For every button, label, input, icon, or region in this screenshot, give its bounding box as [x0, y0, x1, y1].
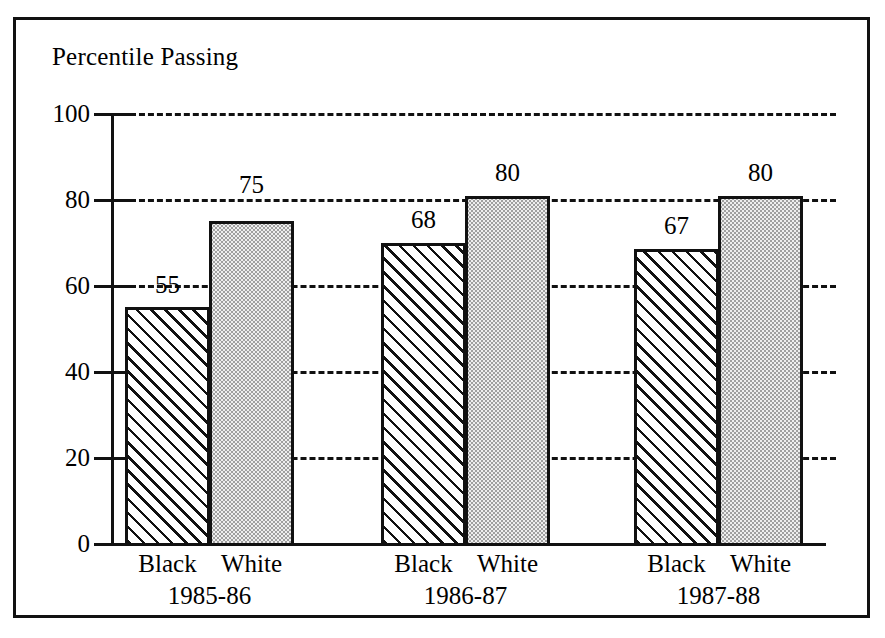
y-tick-label-60: 60: [18, 273, 90, 298]
bar-1986-87-white[interactable]: [465, 196, 550, 546]
y-tick-label-0: 0: [18, 531, 90, 556]
y-tick-mark-100: [94, 113, 130, 116]
bar-1987-88-black[interactable]: [634, 249, 719, 546]
bar-value-1985-86-white: 75: [209, 172, 294, 197]
series-label-1987-88-white: White: [718, 551, 803, 576]
y-tick-label-40: 40: [18, 359, 90, 384]
bar-1987-88-white[interactable]: [718, 196, 803, 546]
bar-value-1985-86-black: 55: [125, 272, 210, 297]
y-axis-spine: [111, 113, 114, 544]
bar-value-1987-88-black: 67: [634, 213, 719, 238]
series-label-1985-86-white: White: [209, 551, 294, 576]
y-tick-mark-80: [94, 199, 130, 202]
y-tick-label-20: 20: [18, 445, 90, 470]
gridline-100: [130, 113, 836, 116]
bar-1985-86-white[interactable]: [209, 221, 294, 546]
y-tick-label-80: 80: [18, 187, 90, 212]
bar-1986-87-black[interactable]: [381, 243, 466, 546]
series-label-1986-87-black: Black: [381, 551, 466, 576]
group-label-1986-87: 1986-87: [381, 583, 550, 608]
bar-value-1987-88-white: 80: [718, 160, 803, 185]
group-label-1987-88: 1987-88: [634, 583, 803, 608]
bar-value-1986-87-white: 80: [465, 160, 550, 185]
y-axis-title: Percentile Passing: [52, 43, 238, 71]
bar-value-1986-87-black: 68: [381, 207, 466, 232]
series-label-1985-86-black: Black: [125, 551, 210, 576]
y-tick-label-100: 100: [18, 101, 90, 126]
group-label-1985-86: 1985-86: [125, 583, 294, 608]
bar-1985-86-black[interactable]: [125, 307, 210, 546]
series-label-1986-87-white: White: [465, 551, 550, 576]
series-label-1987-88-black: Black: [634, 551, 719, 576]
